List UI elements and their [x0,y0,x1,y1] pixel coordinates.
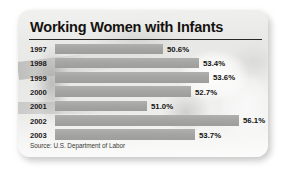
row-value-label: 51.0% [151,102,173,111]
row-bar-track: 53.7% [55,129,255,140]
row-bar [55,115,239,126]
row-year-label: 2001 [30,102,47,111]
source-caption: Source: U.S. Department of Labor [30,142,125,149]
row-bar-track: 56.1% [55,115,255,126]
row-bar [55,86,191,97]
table-row: 2001 51.0% [18,99,268,113]
table-row: 1998 53.4% [18,56,268,70]
table-row: 2002 56.1% [18,113,268,127]
table-row: 2003 53.7% [18,128,268,142]
chart-screenshot: Working Women with Infants 1997 50.6% 19… [0,0,289,174]
row-bar [55,101,147,112]
row-value-label: 50.6% [167,44,189,53]
row-bar [55,129,195,140]
row-year-label: 1997 [30,45,47,54]
row-value-label: 53.4% [203,59,225,68]
row-value-label: 56.1% [243,116,265,125]
title-divider [29,39,262,41]
row-year-label: 1998 [30,59,47,68]
row-value-label: 53.7% [199,130,221,139]
row-year-label: 2002 [30,116,47,125]
row-bar [55,72,209,83]
bar-chart-rows: 1997 50.6% 1998 53.4% 1999 [18,42,268,142]
row-bar-track: 50.6% [55,44,255,55]
row-bar-track: 52.7% [55,86,255,97]
row-value-label: 53.6% [213,73,235,82]
table-row: 1999 53.6% [18,71,268,85]
row-bar [55,44,163,55]
row-year-label: 2000 [30,88,47,97]
row-bar [55,58,199,69]
page-title: Working Women with Infants [30,19,223,35]
row-bar-track: 53.4% [55,58,255,69]
row-bar-track: 51.0% [55,101,255,112]
row-year-label: 1999 [30,73,47,82]
table-row: 1997 50.6% [18,42,268,56]
row-year-label: 2003 [30,130,47,139]
row-value-label: 52.7% [195,87,217,96]
table-row: 2000 52.7% [18,85,268,99]
infographic-card: Working Women with Infants 1997 50.6% 19… [18,10,268,157]
row-bar-track: 53.6% [55,72,255,83]
